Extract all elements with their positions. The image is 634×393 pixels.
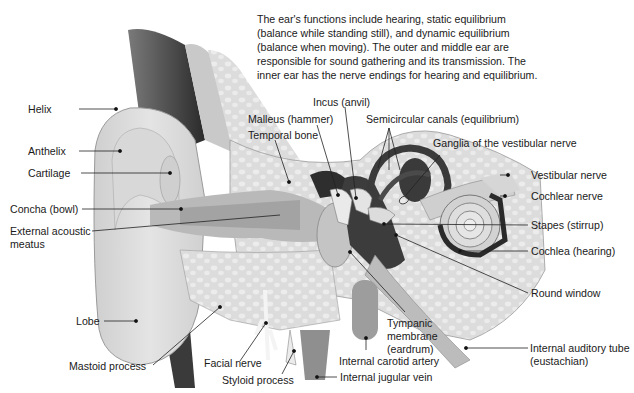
label-round-window: Round window — [531, 287, 601, 300]
label-incus: Incus (anvil) — [313, 96, 370, 109]
label-stapes: Stapes (stirrup) — [531, 219, 603, 232]
description-line: The ear's functions include hearing, sta… — [257, 12, 597, 26]
description-paragraph: The ear's functions include hearing, sta… — [257, 12, 597, 82]
description-line: responsible for sound gathering and its … — [257, 54, 597, 68]
styloid-process — [286, 330, 296, 365]
label-semicircular-canals: Semicircular canals (equilibrium) — [366, 113, 519, 126]
internal-jugular-vein — [300, 330, 330, 380]
label-cochlea: Cochlea (hearing) — [531, 245, 615, 258]
label-line: External acoustic — [10, 225, 91, 238]
label-line: Tympanic — [387, 317, 438, 330]
label-internal-jugular-vein: Internal jugular vein — [340, 371, 432, 384]
label-helix: Helix — [28, 103, 52, 116]
label-tympanic-membrane: Tympanic membrane (eardrum) — [387, 317, 438, 356]
label-line: (eustachian) — [530, 355, 630, 368]
label-malleus: Malleus (hammer) — [248, 113, 333, 126]
ear-anatomy-diagram: The ear's functions include hearing, sta… — [0, 0, 634, 393]
label-line: membrane — [387, 330, 438, 343]
label-cochlear-nerve: Cochlear nerve — [531, 190, 603, 203]
label-line: Internal auditory tube — [530, 342, 630, 355]
label-line: meatus — [10, 238, 91, 251]
description-line: inner ear has the nerve endings for hear… — [257, 68, 597, 82]
label-line: (eardrum) — [387, 343, 438, 356]
label-cartilage: Cartilage — [28, 167, 70, 180]
label-concha: Concha (bowl) — [10, 203, 78, 216]
label-temporal-bone: Temporal bone — [248, 129, 318, 142]
description-line: (balance when moving). The outer and mid… — [257, 40, 597, 54]
label-mastoid-process: Mastoid process — [69, 360, 146, 373]
label-facial-nerve: Facial nerve — [204, 357, 262, 370]
label-external-acoustic-meatus: External acoustic meatus — [10, 225, 91, 251]
label-anthelix: Anthelix — [28, 145, 66, 158]
internal-carotid-artery — [352, 280, 378, 340]
label-ganglia-vestibular-nerve: Ganglia of the vestibular nerve — [433, 137, 577, 150]
label-vestibular-nerve: Vestibular nerve — [531, 169, 607, 182]
label-internal-auditory-tube: Internal auditory tube (eustachian) — [530, 342, 630, 368]
label-styloid-process: Styloid process — [222, 374, 294, 387]
description-line: (balance while standing still), and dyna… — [257, 26, 597, 40]
label-internal-carotid-artery: Internal carotid artery — [339, 355, 439, 368]
label-lobe: Lobe — [76, 315, 100, 328]
